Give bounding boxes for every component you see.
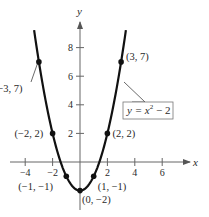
data-point — [91, 174, 97, 180]
x-tick-label: −4 — [20, 167, 31, 178]
point-label: (3, 7) — [126, 51, 149, 63]
data-point — [50, 131, 56, 137]
data-point — [118, 59, 124, 65]
point-label: (0, −2) — [82, 194, 111, 206]
y-tick-label: 2 — [68, 128, 73, 139]
x-tick-label: 6 — [160, 167, 165, 178]
y-tick-label: 8 — [68, 42, 73, 53]
point-labels: (−3, 7)(−2, 2)(−1, −1)(0, −2)(1, −1)(2, … — [0, 51, 149, 206]
point-label: (−2, 2) — [15, 128, 44, 140]
data-point — [105, 131, 111, 137]
y-tick-label: 6 — [68, 71, 73, 82]
leader-line-neg3-7 — [31, 62, 38, 82]
x-tick-label: 2 — [105, 167, 110, 178]
equation-label: y = x2 − 2 — [126, 103, 170, 116]
x-axis-label: x — [192, 156, 198, 168]
point-label: (1, −1) — [98, 181, 127, 193]
parabola-graph: x y −4−2246 2468 y = x2 − 2 (−3, 7)(−2, … — [0, 0, 209, 217]
y-ticks: 2468 — [68, 42, 84, 139]
equation-callout-pointer — [124, 82, 145, 102]
data-point — [64, 174, 70, 180]
point-label: (2, 2) — [112, 128, 135, 140]
y-axis-label: y — [76, 5, 82, 17]
point-label: (−3, 7) — [0, 83, 23, 95]
x-tick-label: 4 — [132, 167, 137, 178]
y-tick-label: 4 — [68, 99, 73, 110]
x-tick-label: −2 — [47, 167, 58, 178]
point-label: (−1, −1) — [18, 181, 53, 193]
data-point — [77, 188, 83, 194]
data-point — [36, 59, 42, 65]
